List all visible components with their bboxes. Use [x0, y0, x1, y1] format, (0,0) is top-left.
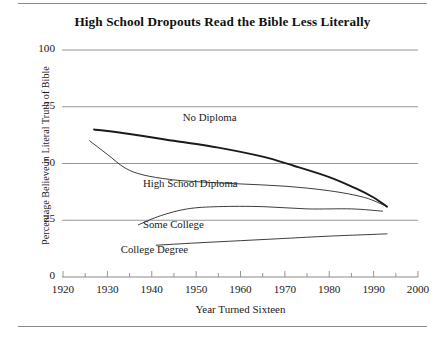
x-tick-label: 1920	[43, 283, 83, 295]
gridlines-group	[62, 50, 418, 277]
y-tick-label: 50	[21, 156, 55, 168]
x-tick-label: 1990	[354, 283, 394, 295]
series-lines-group	[90, 129, 387, 245]
x-tick-label: 1940	[132, 283, 172, 295]
x-tick-label: 1960	[221, 283, 261, 295]
y-tick-label: 100	[21, 42, 55, 54]
series-label: Some College	[143, 218, 204, 230]
x-tick-label: 2000	[398, 283, 438, 295]
series-line	[156, 234, 387, 245]
y-tick-label: 25	[21, 212, 55, 224]
x-tick-label: 1930	[87, 283, 127, 295]
x-tick-label: 1980	[309, 283, 349, 295]
series-label: High School Diploma	[143, 177, 238, 189]
series-label: College Degree	[121, 243, 188, 255]
y-tick-label: 0	[21, 269, 55, 281]
series-label: No Diploma	[183, 111, 237, 123]
chart-figure: High School Dropouts Read the Bible Less…	[0, 0, 445, 339]
x-axis-group	[63, 271, 418, 277]
y-tick-label: 75	[21, 99, 55, 111]
x-tick-label: 1950	[176, 283, 216, 295]
x-tick-label: 1970	[265, 283, 305, 295]
series-line	[94, 129, 387, 206]
